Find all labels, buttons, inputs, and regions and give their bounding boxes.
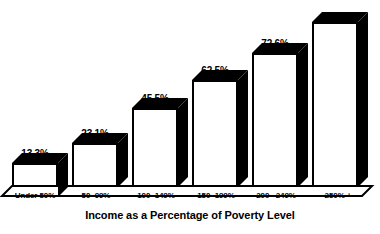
bar-front-face [72, 143, 118, 187]
bar-chart: 13.3% Under 50% 23.1% 50–99% 45.5% 100–1… [0, 0, 380, 234]
bar-front-face [12, 163, 58, 187]
category-label: Under 50% [0, 191, 70, 200]
category-label: 250% + [303, 191, 373, 200]
plot-area: 13.3% Under 50% 23.1% 50–99% 45.5% 100–1… [0, 0, 380, 200]
bar-front-face [192, 80, 238, 187]
category-label: 200– 249% [240, 191, 312, 200]
x-axis-title: Income as a Percentage of Poverty Level [0, 209, 380, 221]
bar-front-face [252, 53, 298, 187]
bar-value-label: 72.6% [245, 38, 305, 49]
bar-value-label: 45.5% [125, 93, 185, 104]
bar-front-face [312, 22, 358, 187]
bar-value-label: 62.5% [185, 65, 245, 76]
bar-front-face [132, 108, 178, 187]
bar-value-label: 13.3% [5, 148, 65, 159]
bar-value-label: 23.1% [65, 128, 125, 139]
